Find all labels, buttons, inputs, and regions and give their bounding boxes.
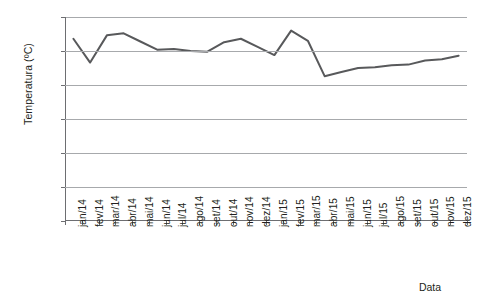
x-tick-label: jan/15 (278, 199, 289, 227)
x-tick-label: nov/15 (445, 196, 456, 227)
x-tick-label: jan/14 (77, 199, 88, 227)
x-axis-title: Data (393, 281, 467, 293)
x-tick-label: jul/15 (378, 202, 389, 227)
y-axis-title: Temperatura (ºC) (22, 4, 34, 164)
temperature-line-chart: Temperatura (ºC) 051015202530 jan/14fev/… (0, 0, 483, 304)
gridline (65, 119, 467, 120)
x-tick-label: out/14 (228, 199, 239, 227)
x-tick-label: abr/14 (127, 198, 138, 227)
x-tick-label: mar/15 (311, 195, 322, 227)
x-tick-label: jul/14 (177, 202, 188, 227)
x-tick-label: fev/14 (94, 199, 105, 227)
y-tick-mark (61, 85, 65, 86)
x-tick-label: mai/14 (144, 196, 155, 227)
gridline (65, 51, 467, 52)
x-tick-label: mar/14 (110, 195, 121, 227)
x-tick-label: out/15 (429, 199, 440, 227)
gridline (65, 187, 467, 188)
x-tick-label: fev/15 (295, 199, 306, 227)
x-tick-label: jun/14 (161, 199, 172, 227)
x-tick-label: mai/15 (345, 196, 356, 227)
y-tick-mark (61, 51, 65, 52)
x-tick-label: abr/15 (328, 198, 339, 227)
x-tick-label: jun/15 (362, 199, 373, 227)
gridline (65, 153, 467, 154)
x-tick-label: nov/14 (244, 196, 255, 227)
x-tick-label: set/14 (211, 199, 222, 227)
x-tick-label: ago/14 (194, 196, 205, 227)
x-axis-category-labels: jan/14fev/14mar/14abr/14mai/14jun/14jul/… (65, 225, 467, 285)
x-tick-label: set/15 (412, 199, 423, 227)
x-tick-label: dez/15 (462, 196, 473, 227)
plot-area: 051015202530 (65, 17, 467, 221)
x-tick-label: ago/15 (395, 196, 406, 227)
y-tick-mark (61, 187, 65, 188)
x-tick-label: dez/14 (261, 196, 272, 227)
gridline (65, 85, 467, 86)
series-polyline (73, 31, 458, 77)
y-tick-mark (61, 153, 65, 154)
y-tick-mark (61, 17, 65, 18)
y-tick-mark (61, 119, 65, 120)
